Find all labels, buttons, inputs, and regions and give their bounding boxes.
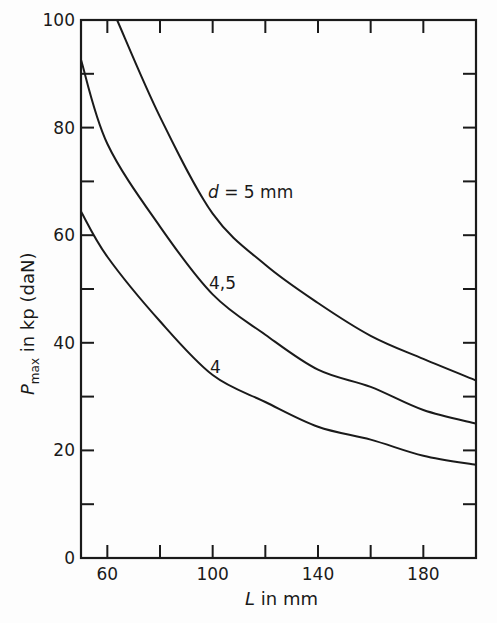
plot-border bbox=[81, 20, 476, 558]
curve-label-d5: d = 5 mm bbox=[208, 182, 293, 202]
y-tick-label: 40 bbox=[53, 333, 75, 353]
x-tick-label: 180 bbox=[407, 564, 439, 584]
x-tick-label: 60 bbox=[97, 564, 119, 584]
y-tick-label: 80 bbox=[53, 118, 75, 138]
curve-label-d4: 4 bbox=[210, 357, 221, 377]
x-axis-label: L in mm bbox=[245, 588, 318, 609]
curve-label-d45: 4,5 bbox=[209, 273, 236, 293]
axis-ticks bbox=[81, 20, 476, 558]
y-tick-label: 20 bbox=[53, 440, 75, 460]
y-tick-label: 60 bbox=[53, 225, 75, 245]
curve-series-1 bbox=[81, 60, 476, 424]
x-tick-label: 140 bbox=[302, 564, 334, 584]
y-axis-label: Pmax in kp (daN) bbox=[17, 253, 42, 395]
plot-frame bbox=[81, 20, 476, 558]
tick-labels: 60100140180020406080100 bbox=[43, 10, 440, 584]
chart: 60100140180020406080100 d = 5 mm 4,5 4 L… bbox=[0, 0, 497, 623]
y-tick-label: 0 bbox=[64, 548, 75, 568]
x-tick-label: 100 bbox=[196, 564, 228, 584]
y-tick-label: 100 bbox=[43, 10, 75, 30]
curve-series-0 bbox=[117, 20, 476, 380]
curve-series-2 bbox=[81, 212, 476, 465]
curves bbox=[81, 20, 476, 465]
